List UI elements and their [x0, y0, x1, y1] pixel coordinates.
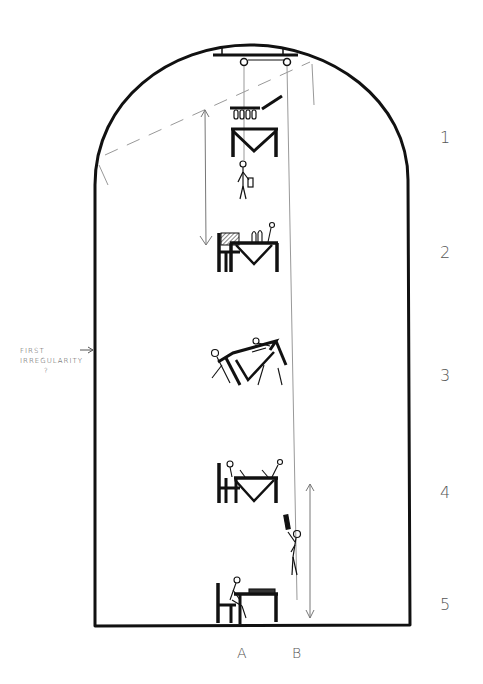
stage-3-tilted-table: [212, 338, 287, 385]
stage-label-4: 4: [440, 483, 450, 502]
stage-label-5: 5: [440, 595, 450, 614]
annotation-line-2: IRREGULARITY: [20, 356, 83, 366]
position-label-b: B: [292, 645, 301, 661]
stage-label-1: 1: [440, 128, 450, 147]
stage-label-2: 2: [440, 243, 450, 262]
stage-2-lowered-table: [219, 223, 278, 273]
annotation-line-3: ?: [20, 366, 83, 376]
stage-label-3: 3: [440, 366, 450, 385]
ceiling-rig: [213, 48, 298, 66]
annotation-line-1: FIRST: [20, 346, 83, 356]
sketch-canvas: [0, 0, 483, 684]
stage-4-seated-table: [219, 460, 301, 576]
position-label-a: A: [237, 645, 247, 661]
arch-frame: [95, 45, 410, 626]
height-arrow-right: [306, 484, 314, 618]
stage-1-suspended-table: [230, 96, 282, 199]
guide-lines: [99, 62, 314, 600]
stage-5-floor-table: [218, 577, 278, 624]
annotation-note: FIRST IRREGULARITY ?: [20, 346, 83, 376]
height-arrow-left: [200, 110, 212, 245]
